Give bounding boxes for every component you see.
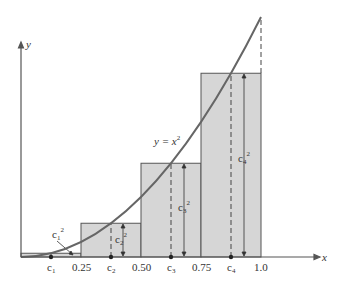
rectangles <box>21 73 261 257</box>
rectangle-3 <box>141 163 201 257</box>
tick-label: 0.25 <box>72 261 92 273</box>
svg-text:c2: c2 <box>107 261 116 275</box>
x-axis-arrow-icon <box>314 255 320 260</box>
svg-text:c12: c12 <box>52 226 64 242</box>
tick-label: 1.0 <box>254 261 268 273</box>
y-axis-arrow-icon <box>19 42 24 48</box>
svg-text:c4: c4 <box>227 261 236 275</box>
svg-text:c3: c3 <box>167 261 176 275</box>
svg-text:c1: c1 <box>47 261 56 275</box>
x-axis-label: x <box>321 251 327 263</box>
curve-label: y = x2 <box>153 134 181 147</box>
tick-label: 0.50 <box>132 261 152 273</box>
riemann-sum-diagram: y x 0.25 0.50 0.75 1.0 c1 c2 c3 c4 c12 c… <box>0 0 344 282</box>
tick-label: 0.75 <box>192 261 212 273</box>
y-axis-label: y <box>25 38 31 50</box>
